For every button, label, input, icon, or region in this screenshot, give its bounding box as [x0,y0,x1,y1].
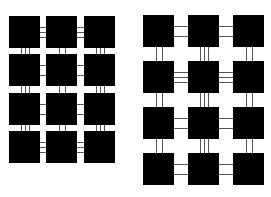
left-grid-tile [84,131,115,163]
left-grid-v-connector [25,124,26,131]
left-grid-v-connector [59,124,60,131]
left-grid-v-connector [104,85,105,93]
left-grid-h-connector [77,32,84,33]
right-grid-h-connector [219,77,233,78]
left-grid-h-connector [77,152,84,153]
left-grid-h-connector [77,37,84,38]
left-grid-tile [46,93,77,125]
left-grid-v-connector [29,85,30,93]
left-grid-v-connector [59,47,60,54]
left-grid-tile [84,16,115,48]
right-grid-h-connector [219,82,233,83]
left-grid-v-connector [21,124,22,131]
left-grid-v-connector [21,47,22,54]
right-grid-v-connector [246,92,247,107]
left-grid-v-connector [96,124,97,131]
right-grid-h-connector [219,174,233,175]
left-grid-v-connector [96,47,97,54]
left-grid-v-connector [96,85,97,93]
right-grid-tile [188,107,219,139]
left-grid-v-connector [100,124,101,131]
left-grid-h-connector [77,65,84,66]
left-grid-h-connector [77,142,84,143]
right-grid-v-connector [156,92,157,107]
right-grid-h-connector [219,118,233,119]
right-grid-tile [233,107,264,139]
left-grid-v-connector [104,124,105,131]
right-grid-v-connector [204,92,205,107]
right-grid-tile [233,153,264,185]
right-grid-tile [188,15,219,47]
right-grid-v-connector [200,138,201,153]
left-grid-v-connector [100,47,101,54]
right-grid-tile [233,61,264,93]
right-grid-v-connector [156,46,157,61]
right-grid-h-connector [174,72,188,73]
right-grid-tile [188,61,219,93]
left-grid-v-connector [21,85,22,93]
right-grid-h-connector [174,174,188,175]
right-grid-v-connector [208,92,209,107]
right-grid-v-connector [246,46,247,61]
right-grid-v-connector [208,138,209,153]
right-grid-h-connector [174,26,188,27]
right-grid-tile [143,61,174,93]
right-grid-h-connector [174,36,188,37]
right-grid-v-connector [200,92,201,107]
right-grid-v-connector [252,46,253,61]
right-grid-tile [188,153,219,185]
left-grid-v-connector [29,47,30,54]
left-grid-tile [46,54,77,86]
right-grid-h-connector [174,82,188,83]
right-grid-v-connector [200,46,201,61]
right-grid-v-connector [208,46,209,61]
right-grid-v-connector [204,138,205,153]
left-grid-tile [9,93,40,125]
left-grid-tile [46,131,77,163]
left-grid-v-connector [100,85,101,93]
left-grid-h-connector [77,104,84,105]
right-grid-h-connector [219,36,233,37]
left-grid-v-connector [29,124,30,131]
right-grid-h-connector [174,77,188,78]
right-grid-h-connector [174,128,188,129]
right-grid-h-connector [219,164,233,165]
right-grid-tile [143,107,174,139]
left-grid-h-connector [77,114,84,115]
left-grid-h-connector [77,75,84,76]
left-grid-tile [9,16,40,48]
right-grid-h-connector [219,128,233,129]
right-grid-h-connector [174,118,188,119]
left-grid-tile [46,16,77,48]
right-grid-v-connector [156,138,157,153]
right-grid-v-connector [246,138,247,153]
right-grid-v-connector [252,92,253,107]
left-grid-h-connector [77,27,84,28]
left-grid-v-connector [25,47,26,54]
right-grid-v-connector [252,138,253,153]
left-grid-tile [84,93,115,125]
left-grid-tile [9,54,40,86]
left-grid-v-connector [65,124,66,131]
right-grid-v-connector [162,92,163,107]
right-grid-v-connector [162,138,163,153]
right-grid-tile [233,15,264,47]
left-grid-tile [9,131,40,163]
left-grid-v-connector [104,47,105,54]
left-grid-v-connector [59,85,60,93]
left-grid-tile [84,54,115,86]
left-grid-v-connector [65,85,66,93]
left-grid-v-connector [65,47,66,54]
right-grid-tile [143,15,174,47]
right-grid-h-connector [219,72,233,73]
left-grid-h-connector [77,147,84,148]
right-grid-h-connector [219,26,233,27]
right-grid-h-connector [174,164,188,165]
left-grid-v-connector [25,85,26,93]
right-grid-v-connector [162,46,163,61]
right-grid-tile [143,153,174,185]
right-grid-v-connector [204,46,205,61]
